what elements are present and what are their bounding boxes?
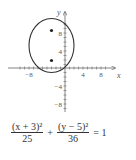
svg-text:−8: −8: [55, 101, 63, 109]
equals-one: = 1: [93, 127, 106, 138]
fraction-x: (x + 3)² 25: [11, 121, 43, 144]
fraction-y: (y − 5)² 36: [57, 121, 89, 144]
svg-text:−8: −8: [25, 71, 33, 79]
ellipse-curve: [29, 19, 74, 73]
x-axis-label: x: [116, 71, 121, 80]
ellipse-equation: (x + 3)² 25 + (y − 5)² 36 = 1: [10, 121, 109, 144]
ellipse-graph: −8 4 8 8 4 −4 −8 x y: [0, 0, 136, 115]
svg-text:4: 4: [81, 71, 85, 79]
focus-point-lower: [50, 59, 53, 62]
denominator-y: 36: [68, 133, 78, 144]
focus-point-upper: [50, 29, 53, 32]
svg-text:8: 8: [99, 71, 103, 79]
numerator-y: (y − 5)²: [57, 121, 89, 133]
numerator-x: (x + 3)²: [11, 121, 43, 133]
y-axis-label: y: [56, 8, 61, 17]
svg-text:8: 8: [59, 30, 63, 38]
denominator-x: 25: [22, 133, 32, 144]
svg-text:4: 4: [59, 48, 63, 56]
tick-labels: −8 4 8 8 4 −4 −8: [25, 30, 103, 109]
plus-sign: +: [47, 127, 53, 138]
svg-text:−4: −4: [55, 83, 63, 91]
